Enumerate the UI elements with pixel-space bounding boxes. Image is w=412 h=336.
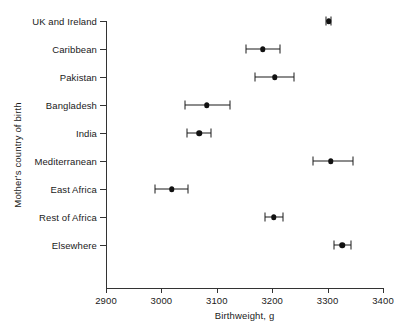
y-tick [100,189,106,190]
y-tick [100,105,106,106]
x-axis-title: Birthweight, g [106,310,383,321]
error-bar-cap [313,157,314,166]
data-point-uk-and-ireland [326,18,332,24]
category-label-uk-and-ireland: UK and Ireland [32,16,97,27]
error-bar-cap [333,241,334,250]
category-label-mediterranean: Mediterranean [34,156,97,167]
x-tick-label: 3100 [206,295,228,306]
x-tick [272,288,273,293]
category-label-east-africa: East Africa [50,184,97,195]
data-point-india [196,130,202,136]
error-bar-cap [185,101,186,110]
error-bar-cap [255,73,256,82]
error-bar-cap [245,45,246,54]
category-label-bangladesh: Bangladesh [46,100,97,111]
error-bar-cap [350,241,351,250]
data-point-bangladesh [204,102,210,108]
x-tick-label: 3000 [151,295,173,306]
error-bar-cap [353,157,354,166]
error-bar-cap [264,213,265,222]
data-point-caribbean [260,46,266,52]
data-point-east-africa [169,186,175,192]
category-label-rest-of-africa: Rest of Africa [39,212,97,223]
error-bar-cap [186,129,187,138]
error-bar-cap [230,101,231,110]
error-bar-cap [187,185,188,194]
category-label-caribbean: Caribbean [52,44,97,55]
x-tick-label: 3300 [317,295,339,306]
y-tick [100,217,106,218]
y-tick [100,245,106,246]
error-bar-cap [211,129,212,138]
birthweight-forest-plot: Mother's country of birth Birthweight, g… [0,0,412,336]
x-tick-label: 2900 [95,295,117,306]
error-bar-cap [282,213,283,222]
category-label-india: India [76,128,97,139]
y-tick [100,77,106,78]
x-tick [328,288,329,293]
category-label-pakistan: Pakistan [60,72,97,83]
error-bar-cap [154,185,155,194]
x-tick [383,288,384,293]
y-axis-title: Mother's country of birth [12,15,28,295]
x-tick-label: 3200 [261,295,283,306]
x-tick [217,288,218,293]
y-tick [100,21,106,22]
data-point-elsewhere [339,242,345,248]
category-label-elsewhere: Elsewhere [52,240,97,251]
error-bar-cap [279,45,280,54]
x-tick-label: 3400 [372,295,394,306]
x-tick [106,288,107,293]
x-axis-line [106,288,384,289]
data-point-pakistan [272,74,278,80]
x-tick [161,288,162,293]
data-point-mediterranean [328,158,334,164]
y-tick [100,133,106,134]
y-tick [100,49,106,50]
y-axis-line [106,21,107,288]
y-tick [100,161,106,162]
error-bar-cap [293,73,294,82]
data-point-rest-of-africa [271,214,277,220]
